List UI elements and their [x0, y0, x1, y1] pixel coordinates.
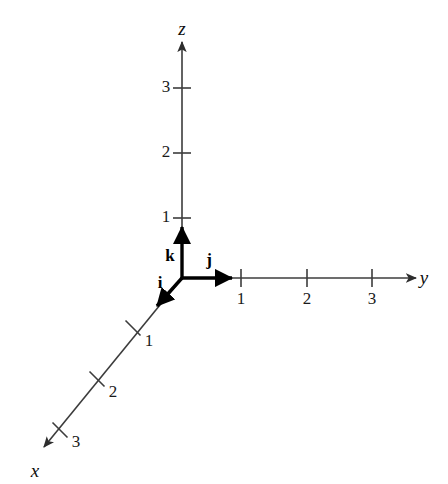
- y-tick-label-2: 2: [303, 290, 312, 307]
- y-tick-label-1: 1: [237, 290, 246, 307]
- y-tick-label-3: 3: [368, 290, 377, 307]
- x-tick-label-3: 3: [72, 433, 81, 450]
- unit-vector-label-k: k: [165, 247, 174, 264]
- axis-label-z: z: [178, 19, 185, 38]
- z-tick-label-1: 1: [162, 208, 171, 225]
- x-tick-label-2: 2: [109, 383, 118, 400]
- z-tick-label-2: 2: [162, 143, 171, 160]
- axes-drawing: [0, 0, 448, 484]
- unit-vector-label-i: i: [158, 274, 163, 291]
- axis-label-y: y: [420, 268, 428, 287]
- x-tick-label-1: 1: [145, 332, 154, 349]
- unit-vector-label-j: j: [206, 251, 212, 268]
- coordinate-axes-figure: x y z 1 2 3 1 2 3 1 2 3 i j k: [0, 0, 448, 484]
- axis-label-x: x: [31, 461, 39, 480]
- z-tick-label-3: 3: [162, 78, 171, 95]
